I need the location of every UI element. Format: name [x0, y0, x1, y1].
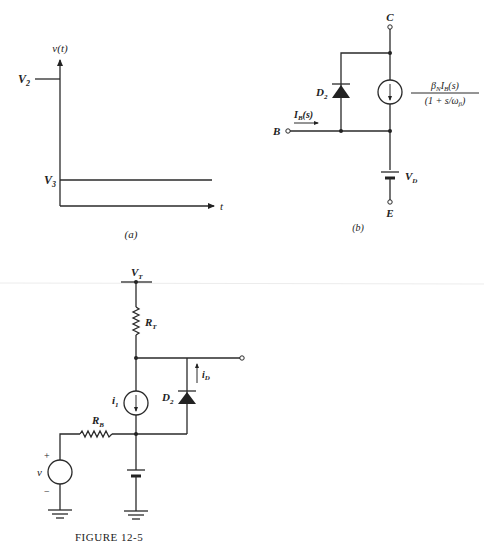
v3-label: V3: [44, 173, 56, 189]
panel-a-waveform-plot: v(t) t V2 V3 (a): [18, 42, 224, 241]
emitter-terminal-label: E: [385, 207, 393, 219]
diode-current-label: iD: [202, 369, 210, 382]
collector-terminal: [388, 25, 392, 29]
diode-d2: [178, 391, 196, 404]
battery: [127, 470, 145, 476]
output-terminal: [240, 356, 244, 360]
resistor-rb-label: RB: [91, 414, 104, 429]
wire: [60, 434, 80, 460]
emitter-terminal: [388, 200, 392, 204]
diode-d2: [332, 84, 350, 98]
y-axis-label: v(t): [52, 42, 68, 55]
figure-caption: FIGURE 12-5: [75, 531, 143, 543]
resistor-rt: [133, 307, 139, 335]
junction-dot: [134, 432, 138, 436]
scan-artifact-line: [0, 283, 484, 284]
source-expression: βNIB(s) (1 + s/ωβ): [411, 80, 479, 108]
svg-text:βNIB(s): βNIB(s): [430, 80, 460, 93]
panel-c-switching-circuit: VT RT D2 iD i1 RB: [37, 266, 244, 543]
source-minus-sign: −: [44, 486, 50, 497]
ground-icon: [124, 511, 148, 519]
battery-vd-label: VD: [405, 170, 417, 185]
current-source-i1-label: i1: [112, 394, 119, 409]
panel-b-equivalent-circuit: C D2 βNIB(s) (1 + s/ωβ) B: [272, 11, 479, 234]
v2-label: V2: [18, 72, 30, 88]
resistor-rt-label: RT: [144, 316, 157, 331]
wire: [341, 53, 390, 131]
svg-text:(1 + s/ωβ): (1 + s/ωβ): [425, 95, 466, 108]
source-plus-sign: +: [44, 450, 50, 461]
resistor-rb: [80, 431, 112, 437]
diode-d2-label: D2: [315, 86, 328, 101]
base-current-label: IB(s): [293, 109, 313, 122]
panel-b-label: (b): [352, 222, 364, 234]
base-terminal-label: B: [272, 125, 280, 137]
junction-dot: [388, 129, 392, 133]
supply-vt-label: VT: [131, 266, 143, 281]
current-source: [378, 80, 402, 104]
panel-a-label: (a): [125, 228, 138, 241]
ground-icon: [48, 510, 72, 518]
base-terminal: [286, 129, 290, 133]
junction-dot: [339, 129, 343, 133]
battery-vd: [381, 172, 399, 178]
collector-terminal-label: C: [386, 11, 394, 23]
input-voltage-source: [48, 460, 72, 484]
x-axis-label: t: [220, 200, 224, 212]
diode-d2-label: D2: [161, 391, 174, 406]
figure-12-5: v(t) t V2 V3 (a) C D2 βNIB(s) (1 +: [0, 0, 484, 549]
current-source-i1: [124, 391, 148, 415]
source-v-label: v: [37, 466, 42, 478]
